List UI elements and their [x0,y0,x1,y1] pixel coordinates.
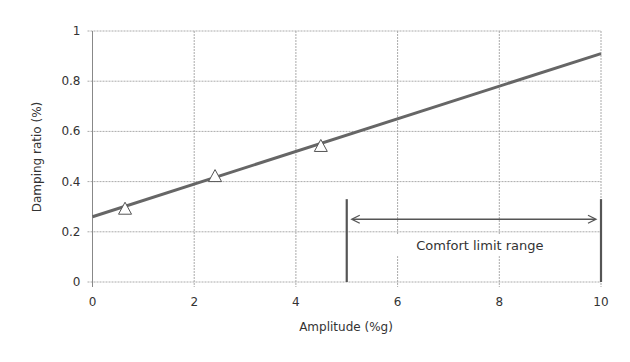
x-tick-label: 6 [394,295,402,309]
y-tick-label: 0.4 [61,175,80,189]
chart: 00.20.40.60.81 0246810 Comfort limit ran… [0,0,630,362]
x-tick-labels: 0246810 [89,295,609,309]
y-tick-label: 0.6 [61,124,80,138]
x-tick-label: 0 [89,295,97,309]
comfort-limit-annotation: Comfort limit range [347,199,601,282]
x-tick-label: 10 [593,295,608,309]
y-tick-labels: 00.20.40.60.81 [61,24,80,289]
data-series [93,54,602,217]
x-tick-label: 8 [495,295,503,309]
fit-line [93,54,602,217]
y-tick-label: 0.8 [61,74,80,88]
x-tick-label: 2 [190,295,198,309]
x-axis-title: Amplitude (%g) [299,320,393,334]
y-tick-label: 0.2 [61,225,80,239]
y-tick-label: 1 [73,24,81,38]
annotation-label: Comfort limit range [416,238,543,253]
y-axis-title: Damping ratio (%) [30,102,44,213]
x-tick-label: 4 [292,295,300,309]
y-tick-label: 0 [73,275,81,289]
